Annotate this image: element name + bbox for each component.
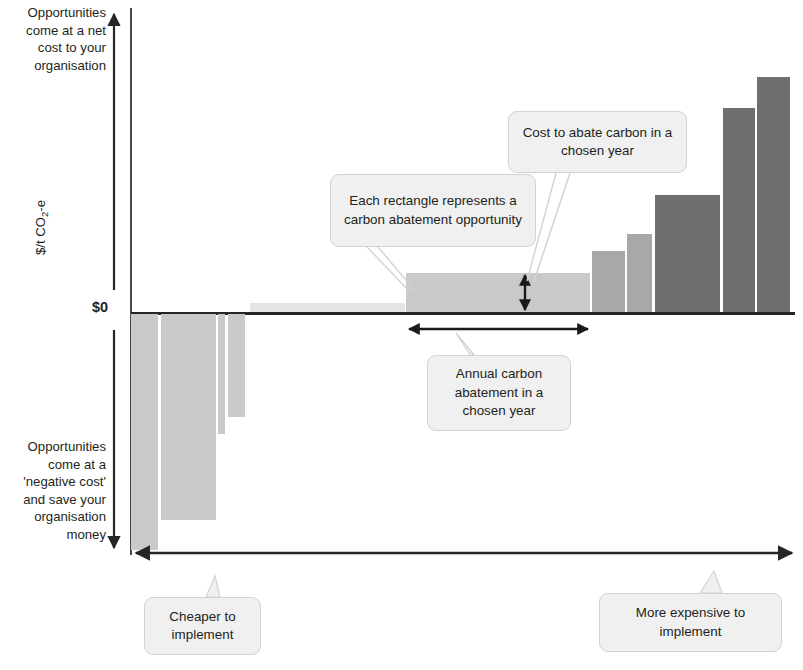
axis-note-positive: Opportunities come at a net cost to your…	[4, 4, 106, 74]
callout-cheaper-text: Cheaper to implement	[155, 608, 250, 645]
leader-more-expensive	[700, 571, 722, 593]
y-axis-title-main: $/t CO	[33, 217, 48, 255]
abatement-bar	[131, 314, 158, 550]
y-axis-title-subscript: 2	[39, 212, 50, 217]
abatement-bar	[218, 314, 225, 434]
leader-cost-abate-2	[534, 173, 570, 281]
leader-cheaper	[206, 576, 220, 597]
abatement-bar	[723, 108, 755, 312]
abatement-bar	[161, 314, 216, 520]
callout-cheaper-to-implement: Cheaper to implement	[144, 597, 261, 655]
abatement-bar	[250, 303, 405, 312]
callout-more-expensive-text: More expensive to implement	[610, 604, 771, 641]
callout-each-rectangle: Each rectangle represents a carbon abate…	[330, 174, 536, 247]
abatement-bar	[406, 273, 590, 312]
callout-cost-to-abate-text: Cost to abate carbon in a chosen year	[519, 124, 676, 161]
arrow-overlay	[0, 0, 803, 670]
axis-note-negative: Opportunities come at a 'negative cost' …	[4, 438, 106, 543]
callout-cost-to-abate: Cost to abate carbon in a chosen year	[508, 111, 687, 173]
callout-more-expensive-to-implement: More expensive to implement	[599, 593, 782, 652]
callout-each-rectangle-text: Each rectangle represents a carbon abate…	[341, 192, 525, 229]
abatement-bar	[592, 251, 625, 312]
y-axis-title-tail: -e	[33, 200, 48, 212]
callout-annual-abatement-text: Annual carbon abatement in a chosen year	[438, 365, 560, 421]
leader-annual-abatement	[456, 333, 474, 355]
y-axis-title: $/t CO2-e	[33, 200, 48, 255]
chart-canvas: Opportunities come at a net cost to your…	[0, 0, 803, 670]
abatement-bar	[627, 234, 652, 312]
abatement-bar	[655, 195, 720, 312]
leader-each-rectangle	[367, 247, 410, 292]
abatement-bar	[757, 77, 790, 312]
zero-tick-label: $0	[92, 299, 108, 315]
abatement-bar	[228, 314, 245, 417]
callout-annual-abatement: Annual carbon abatement in a chosen year	[427, 355, 571, 431]
